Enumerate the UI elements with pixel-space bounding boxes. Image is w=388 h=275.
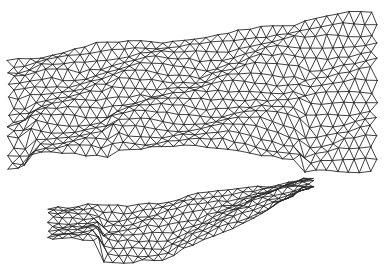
upper-surface-edge bbox=[251, 73, 261, 74]
upper-surface-edge bbox=[311, 93, 316, 103]
upper-surface-edge bbox=[20, 149, 26, 156]
upper-surface-edge bbox=[135, 88, 145, 89]
upper-surface-edge bbox=[343, 12, 349, 23]
upper-surface-edge bbox=[239, 74, 245, 81]
upper-surface-edge bbox=[211, 100, 217, 108]
upper-surface-edge bbox=[338, 160, 343, 172]
lower-surface-edge bbox=[68, 230, 73, 233]
upper-surface-edge bbox=[372, 36, 377, 43]
lower-surface-edge bbox=[188, 220, 198, 221]
upper-surface-edge bbox=[140, 80, 145, 89]
upper-surface-edge bbox=[316, 93, 322, 104]
upper-surface-edge bbox=[75, 132, 80, 135]
upper-surface-edge bbox=[35, 87, 42, 95]
upper-surface-edge bbox=[217, 69, 222, 71]
upper-surface-edge bbox=[129, 107, 134, 110]
upper-surface-edge bbox=[102, 79, 106, 84]
upper-surface-edge bbox=[289, 56, 295, 65]
upper-surface-edge bbox=[113, 75, 119, 78]
upper-surface-edge bbox=[370, 111, 376, 117]
upper-surface-edge bbox=[333, 68, 339, 74]
upper-surface-edge bbox=[310, 137, 317, 147]
upper-surface-edge bbox=[135, 48, 141, 53]
upper-surface-edge bbox=[299, 96, 305, 98]
upper-surface-edge bbox=[41, 94, 52, 95]
upper-surface-edge bbox=[333, 23, 343, 25]
upper-surface-edge bbox=[9, 115, 14, 122]
upper-surface-edge bbox=[184, 52, 189, 59]
lower-surface-edge bbox=[213, 218, 217, 221]
upper-surface-edge bbox=[179, 75, 190, 76]
upper-surface-edge bbox=[200, 44, 207, 52]
upper-surface-edge bbox=[119, 59, 125, 63]
lower-surface-edge bbox=[178, 237, 183, 240]
upper-surface-edge bbox=[249, 117, 256, 125]
lower-surface-edge bbox=[149, 241, 157, 242]
lower-surface-edge bbox=[208, 203, 213, 209]
upper-surface-edge bbox=[315, 35, 326, 37]
upper-surface-edge bbox=[206, 52, 211, 61]
upper-surface-edge bbox=[289, 65, 295, 77]
lower-surface-edge bbox=[213, 196, 222, 197]
upper-surface-edge bbox=[304, 48, 310, 58]
upper-surface-edge bbox=[157, 144, 162, 147]
lower-surface-edge bbox=[193, 226, 197, 229]
upper-surface-edge bbox=[196, 83, 202, 87]
upper-surface-edge bbox=[229, 33, 235, 40]
upper-surface-edge bbox=[86, 155, 97, 156]
upper-surface-edge bbox=[20, 114, 26, 120]
upper-surface-edge bbox=[359, 147, 371, 148]
upper-surface-edge bbox=[135, 41, 141, 48]
upper-surface-edge bbox=[84, 89, 90, 91]
upper-surface-edge bbox=[151, 42, 163, 44]
lower-surface-edge bbox=[78, 220, 84, 224]
upper-surface-edge bbox=[207, 90, 218, 92]
upper-surface-edge bbox=[249, 117, 260, 118]
lower-surface-edge bbox=[214, 226, 219, 227]
upper-surface-edge bbox=[161, 98, 168, 103]
upper-surface-edge bbox=[195, 124, 205, 125]
upper-surface-edge bbox=[266, 84, 271, 94]
upper-surface-edge bbox=[7, 136, 18, 138]
upper-surface-edge bbox=[86, 107, 90, 118]
lower-surface-edge bbox=[232, 195, 238, 199]
upper-surface-edge bbox=[328, 77, 333, 83]
upper-surface-edge bbox=[7, 127, 14, 131]
upper-surface-edge bbox=[305, 71, 309, 80]
upper-surface-edge bbox=[145, 119, 151, 127]
upper-surface-edge bbox=[123, 105, 129, 107]
upper-surface-edge bbox=[337, 133, 344, 138]
upper-surface-edge bbox=[284, 77, 295, 78]
upper-surface-edge bbox=[14, 130, 24, 131]
upper-surface-edge bbox=[305, 21, 310, 29]
upper-surface-edge bbox=[306, 128, 310, 138]
upper-surface-edge bbox=[53, 144, 57, 148]
lower-surface-edge bbox=[262, 206, 274, 214]
upper-surface-edge bbox=[41, 139, 47, 143]
upper-surface-edge bbox=[359, 148, 365, 158]
upper-surface-edge bbox=[112, 66, 119, 69]
upper-surface-edge bbox=[277, 54, 283, 64]
upper-surface-edge bbox=[238, 29, 250, 30]
upper-surface-edge bbox=[41, 144, 46, 149]
lower-surface-edge bbox=[198, 193, 203, 199]
upper-surface-edge bbox=[328, 48, 333, 60]
upper-surface-edge bbox=[211, 41, 223, 42]
upper-surface-edge bbox=[51, 148, 57, 152]
upper-surface-edge bbox=[344, 102, 350, 116]
upper-surface-edge bbox=[195, 98, 201, 108]
upper-surface-edge bbox=[295, 48, 300, 56]
upper-surface-edge bbox=[333, 115, 338, 127]
upper-surface-edge bbox=[130, 78, 136, 88]
upper-surface-edge bbox=[80, 100, 86, 107]
upper-surface-edge bbox=[157, 89, 168, 91]
upper-surface-edge bbox=[321, 114, 328, 126]
upper-surface-edge bbox=[333, 144, 338, 148]
lower-surface-edge bbox=[99, 213, 103, 217]
lower-surface-edge bbox=[94, 237, 99, 241]
upper-surface-edge bbox=[152, 56, 156, 63]
upper-surface-edge bbox=[339, 148, 350, 149]
upper-surface-edge bbox=[217, 148, 228, 149]
upper-surface-edge bbox=[315, 36, 322, 48]
upper-surface-edge bbox=[211, 118, 216, 122]
